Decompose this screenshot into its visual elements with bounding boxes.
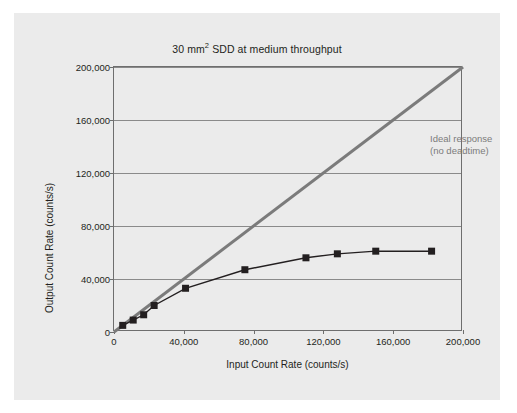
- data-point-marker: [428, 248, 435, 255]
- y-tick-label: 40,000: [81, 274, 110, 285]
- data-point-marker: [334, 250, 341, 257]
- y-tick-label: 120,000: [76, 168, 110, 179]
- annotation-line-1: Ideal response: [430, 133, 492, 145]
- data-point-marker: [302, 254, 309, 261]
- figure-panel: 30 mm2 SDD at medium throughput Output C…: [14, 13, 500, 400]
- chart-title-rest: SDD at medium throughput: [209, 43, 342, 55]
- data-point-marker: [372, 248, 379, 255]
- data-point-marker: [241, 266, 248, 273]
- x-tick-label: 40,000: [169, 336, 198, 347]
- x-tick-label: 160,000: [376, 336, 410, 347]
- y-tick-label: 80,000: [81, 221, 110, 232]
- y-axis-label: Output Count Rate (counts/s): [44, 183, 55, 313]
- x-tick-mark: [463, 330, 464, 334]
- data-series-layer: [114, 67, 463, 332]
- data-point-marker: [130, 317, 137, 324]
- data-point-marker: [119, 322, 126, 329]
- y-tick-label: 160,000: [76, 115, 110, 126]
- data-point-marker: [140, 311, 147, 318]
- data-point-marker: [182, 285, 189, 292]
- x-tick-label: 120,000: [306, 336, 340, 347]
- chart-title: 30 mm2 SDD at medium throughput: [14, 41, 500, 55]
- ideal-response-annotation: Ideal response (no deadtime): [430, 133, 492, 157]
- plot-area: 040,00080,000120,000160,000200,000 040,0…: [113, 66, 462, 331]
- series-line: [114, 67, 463, 332]
- annotation-line-2: (no deadtime): [430, 145, 492, 157]
- chart-title-main: 30 mm: [172, 43, 205, 55]
- y-tick-label: 200,000: [76, 62, 110, 73]
- series-line: [123, 251, 432, 325]
- x-axis-label: Input Count Rate (counts/s): [113, 359, 462, 370]
- data-point-marker: [151, 302, 158, 309]
- x-tick-label: 80,000: [239, 336, 268, 347]
- x-tick-label: 0: [111, 336, 116, 347]
- x-tick-label: 200,000: [446, 336, 480, 347]
